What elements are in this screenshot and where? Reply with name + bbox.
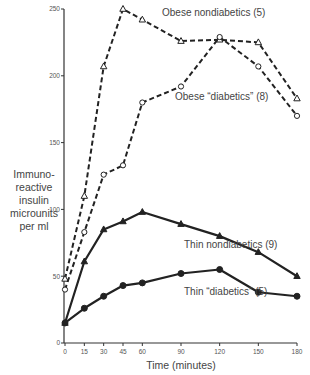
x-tick-label: 45: [119, 348, 127, 355]
data-point-circle: [256, 64, 261, 69]
x-tick-label: 90: [177, 348, 185, 355]
x-tick-label: 15: [81, 348, 89, 355]
series-line-2: [65, 212, 297, 323]
series-label-0: Obese nondiabetics (5): [162, 7, 265, 18]
data-point-circle: [217, 267, 223, 273]
x-tick-label: 30: [100, 348, 108, 355]
data-point-circle: [81, 305, 87, 311]
y-tick-label: 0: [56, 339, 60, 346]
y-tick-label: 250: [49, 5, 60, 12]
series-line-1: [65, 37, 297, 290]
data-point-triangle: [294, 95, 300, 101]
data-point-circle: [62, 287, 67, 292]
data-point-triangle: [100, 63, 106, 69]
data-point-triangle: [120, 6, 126, 12]
x-tick-label: 0: [63, 348, 67, 355]
data-point-circle: [217, 34, 222, 39]
x-tick-label: 180: [292, 348, 303, 355]
data-point-circle: [178, 271, 184, 277]
data-point-circle: [294, 293, 300, 299]
series-label-3: Thin “diabetics” (5): [184, 286, 267, 297]
y-tick-label: 200: [49, 72, 60, 79]
data-point-circle: [140, 100, 145, 105]
y-tick-label: 50: [53, 273, 61, 280]
data-point-triangle: [139, 209, 145, 215]
data-point-circle: [101, 293, 107, 299]
x-axis-title: Time (minutes): [146, 359, 216, 371]
data-point-circle: [62, 320, 68, 326]
series-label-2: Thin nondiabetics (9): [184, 239, 277, 250]
x-tick-label: 60: [139, 348, 147, 355]
data-point-circle: [101, 172, 106, 177]
y-tick-label: 100: [49, 206, 60, 213]
y-tick-label: 150: [49, 139, 60, 146]
data-point-circle: [139, 280, 145, 286]
data-point-circle: [178, 84, 183, 89]
x-tick-label: 150: [253, 348, 264, 355]
line-chart: 05010015020025001530456090120150180 Obes…: [0, 0, 310, 375]
data-point-circle: [120, 283, 126, 289]
series-group: [62, 6, 300, 326]
data-point-circle: [82, 230, 87, 235]
x-tick-label: 120: [214, 348, 225, 355]
data-point-triangle: [81, 193, 87, 199]
series-label-1: Obese “diabetics” (8): [175, 91, 268, 102]
data-point-circle: [294, 113, 299, 118]
data-point-circle: [120, 163, 125, 168]
axes: 05010015020025001530456090120150180: [49, 5, 303, 355]
